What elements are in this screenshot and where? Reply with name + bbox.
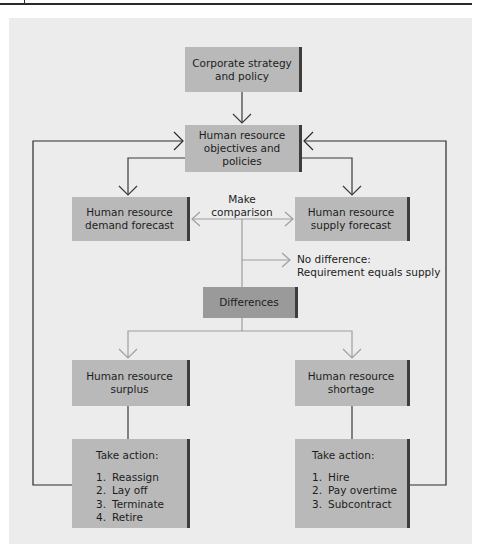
action-list: 1.Hire 2.Pay overtime 3.Subcontract xyxy=(312,471,407,512)
action-num: 1. xyxy=(312,471,328,485)
action-text: Reassign xyxy=(112,471,159,485)
action-title: Take action: xyxy=(96,449,187,463)
action-num: 1. xyxy=(96,471,112,485)
node-label: Human resource objectives and policies xyxy=(199,129,286,168)
action-text: Subcontract xyxy=(328,498,392,512)
action-item: 1.Hire xyxy=(312,471,407,485)
action-item: 2.Lay off xyxy=(96,484,187,498)
action-title: Take action: xyxy=(312,449,407,463)
node-label: Human resource supply forecast xyxy=(308,206,395,232)
action-num: 2. xyxy=(96,484,112,498)
feedback-line-right xyxy=(304,132,446,485)
action-num: 2. xyxy=(312,484,328,498)
action-item: 4.Retire xyxy=(96,511,187,525)
node-hr-objectives: Human resource objectives and policies xyxy=(185,125,302,172)
action-num: 4. xyxy=(96,511,112,525)
action-text: Lay off xyxy=(112,484,148,498)
action-text: Terminate xyxy=(112,498,164,512)
action-list: 1.Reassign 2.Lay off 3.Terminate 4.Retir… xyxy=(96,471,187,525)
arrow-objectives-to-demand xyxy=(119,158,185,195)
node-label: Corporate strategy and policy xyxy=(192,57,292,83)
action-item: 2.Pay overtime xyxy=(312,484,407,498)
node-label: Human resource demand forecast xyxy=(85,206,174,232)
action-item: 3.Terminate xyxy=(96,498,187,512)
action-item: 3.Subcontract xyxy=(312,498,407,512)
action-text: Pay overtime xyxy=(328,484,397,498)
node-label: Human resource shortage xyxy=(308,370,395,396)
node-hr-shortage: Human resource shortage xyxy=(295,360,410,406)
node-label: Human resource surplus xyxy=(86,370,173,396)
node-demand-forecast: Human resource demand forecast xyxy=(72,197,190,241)
label-no-difference: No difference: Requirement equals supply xyxy=(297,253,477,279)
node-supply-forecast: Human resource supply forecast xyxy=(295,197,410,241)
action-item: 1.Reassign xyxy=(96,471,187,485)
node-surplus-actions: Take action: 1.Reassign 2.Lay off 3.Term… xyxy=(72,439,190,528)
arrow-objectives-to-supply xyxy=(302,158,361,195)
label-make-comparison: Make comparison xyxy=(208,193,276,219)
feedback-line-left xyxy=(33,132,183,485)
action-text: Retire xyxy=(112,511,143,525)
node-shortage-actions: Take action: 1.Hire 2.Pay overtime 3.Sub… xyxy=(295,439,410,528)
action-num: 3. xyxy=(96,498,112,512)
arrow-corporate-to-objectives xyxy=(233,92,251,123)
node-corporate-strategy: Corporate strategy and policy xyxy=(185,47,302,92)
action-text: Hire xyxy=(328,471,349,485)
node-hr-surplus: Human resource surplus xyxy=(72,360,190,406)
node-label: Differences xyxy=(219,296,279,309)
action-num: 3. xyxy=(312,498,328,512)
node-differences: Differences xyxy=(203,287,298,318)
